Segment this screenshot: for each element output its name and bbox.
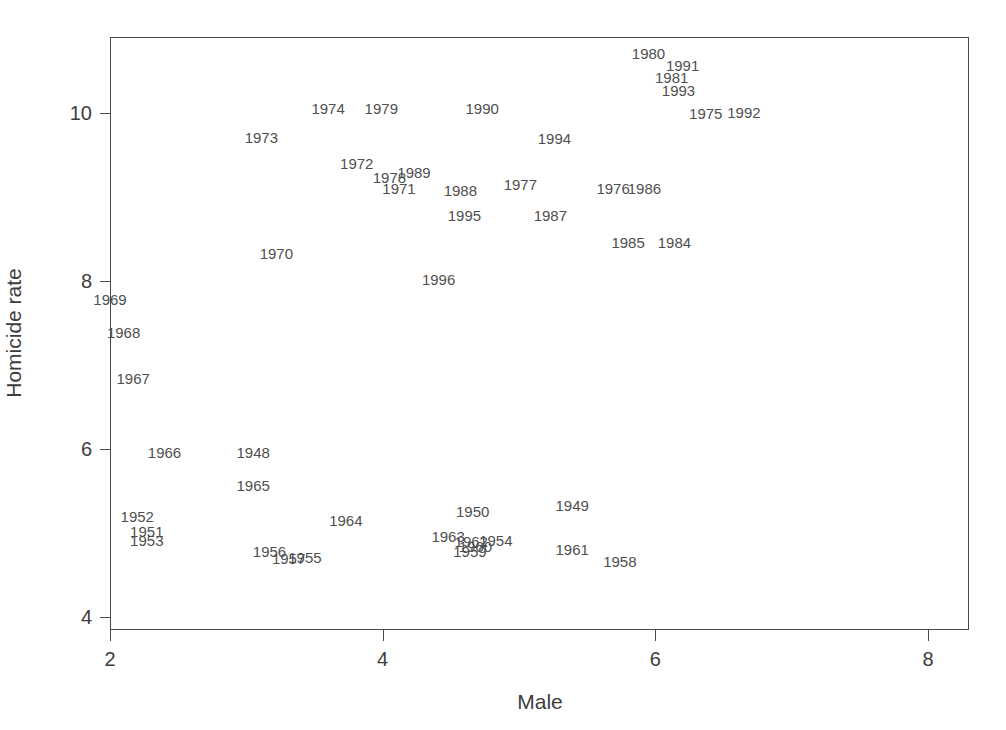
data-point-label: 1995 <box>448 206 481 223</box>
y-axis-tick-label: 4 <box>81 606 92 629</box>
data-point-label: 1950 <box>456 503 489 520</box>
y-axis-tick-label: 6 <box>81 438 92 461</box>
data-point-label: 1966 <box>148 444 181 461</box>
y-axis-tick <box>100 281 111 282</box>
data-point-label: 1987 <box>534 206 567 223</box>
data-point-label: 1977 <box>504 176 537 193</box>
data-point-label: 1989 <box>397 163 430 180</box>
data-point-label: 1949 <box>555 497 588 514</box>
x-axis-tick <box>928 630 929 641</box>
y-axis-title: Homicide rate <box>2 268 26 398</box>
data-point-label: 1980 <box>632 44 665 61</box>
data-point-label: 1992 <box>727 104 760 121</box>
data-point-label: 1961 <box>555 540 588 557</box>
x-axis-tick-label: 6 <box>650 648 661 671</box>
scatter-data-layer: 1948194919501951195219531954195519561957… <box>0 0 1006 730</box>
data-point-label: 1948 <box>236 443 269 460</box>
data-point-label: 1969 <box>93 291 126 308</box>
x-axis-tick-label: 2 <box>104 648 115 671</box>
data-point-label: 1996 <box>422 271 455 288</box>
data-point-label: 1975 <box>689 105 722 122</box>
x-axis-tick <box>383 630 384 641</box>
data-point-label: 1957 <box>272 550 305 567</box>
data-point-label: 1979 <box>365 99 398 116</box>
data-point-label: 1963 <box>431 527 464 544</box>
data-point-label: 1970 <box>260 245 293 262</box>
data-point-label: 1986 <box>628 179 661 196</box>
y-axis-tick <box>100 617 111 618</box>
x-axis-tick-label: 4 <box>377 648 388 671</box>
data-point-label: 1953 <box>130 531 163 548</box>
data-point-label: 1968 <box>107 324 140 341</box>
y-axis-tick-label: 8 <box>81 270 92 293</box>
data-point-label: 1990 <box>466 99 499 116</box>
data-point-label: 1952 <box>121 508 154 525</box>
x-axis-title: Male <box>517 690 563 714</box>
x-axis-tick-label: 8 <box>922 648 933 671</box>
chart-page: 1948194919501951195219531954195519561957… <box>0 0 1006 730</box>
data-point-label: 1972 <box>340 155 373 172</box>
x-axis-tick <box>110 630 111 641</box>
data-point-label: 1967 <box>116 369 149 386</box>
y-axis-tick <box>100 113 111 114</box>
data-point-label: 1988 <box>444 182 477 199</box>
data-point-label: 1984 <box>658 234 691 251</box>
y-axis-tick-label: 10 <box>70 102 92 125</box>
data-point-label: 1991 <box>666 57 699 74</box>
data-point-label: 1974 <box>311 99 344 116</box>
data-point-label: 1994 <box>538 130 571 147</box>
data-point-label: 1958 <box>603 552 636 569</box>
data-point-label: 1964 <box>329 512 362 529</box>
y-axis-tick <box>100 449 111 450</box>
data-point-label: 1965 <box>236 477 269 494</box>
data-point-label: 1985 <box>611 234 644 251</box>
data-point-label: 1993 <box>662 82 695 99</box>
x-axis-tick <box>655 630 656 641</box>
data-point-label: 1976 <box>596 179 629 196</box>
data-point-label: 1973 <box>245 128 278 145</box>
